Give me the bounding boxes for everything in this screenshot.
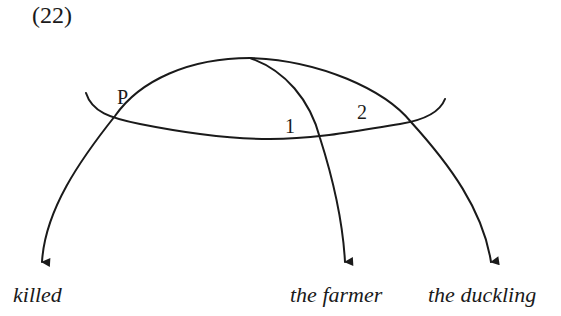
- arg1-arc: [250, 58, 345, 262]
- arg2-arc: [250, 58, 491, 262]
- word-the-duckling: the duckling: [428, 282, 536, 308]
- predicate-arc: [42, 58, 250, 262]
- label-arg2: 2: [357, 101, 367, 123]
- scope-band-arc: [86, 93, 445, 139]
- word-killed: killed: [13, 282, 62, 308]
- word-the-farmer: the farmer: [290, 282, 382, 308]
- label-arg1: 1: [285, 115, 295, 137]
- arc-diagram: P 1 2: [0, 0, 561, 316]
- diagram-figure: (22) P 1 2 killed the farmer the ducklin…: [0, 0, 561, 316]
- label-predicate: P: [117, 86, 128, 108]
